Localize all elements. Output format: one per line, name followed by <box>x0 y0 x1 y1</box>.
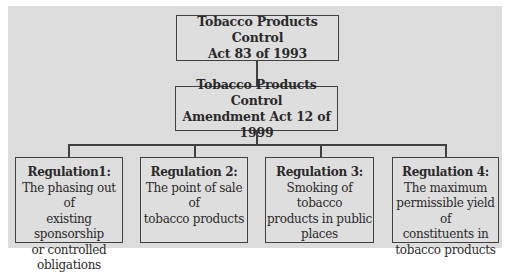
regulation-4-line: constituents in <box>403 227 489 243</box>
regulation-2-box: Regulation 2: The point of sale of tobac… <box>140 157 248 243</box>
regulation-2-line: The point of sale of <box>141 181 247 212</box>
regulation-1-line: existing sponsorship <box>16 212 122 243</box>
regulation-1-box: Regulation1: The phasing out of existing… <box>15 157 123 243</box>
regulation-3-line: Smoking of tobacco <box>266 181 373 212</box>
regulation-4-box: Regulation 4: The maximum permissible yi… <box>392 157 499 243</box>
regulation-2-line: tobacco products <box>144 212 244 228</box>
amendment-act-line1: Tobacco Products Control <box>176 77 337 109</box>
regulation-3-line: products in public <box>267 212 372 228</box>
regulation-1-line: The phasing out of <box>16 181 122 212</box>
root-act-line2: Act 83 of 1993 <box>208 46 307 62</box>
regulation-3-title: Regulation 3: <box>276 165 363 181</box>
root-act-line1: Tobacco Products Control <box>177 14 338 46</box>
regulation-2-title: Regulation 2: <box>151 165 238 181</box>
connector-bus <box>68 144 446 146</box>
regulation-1-line: obligations <box>37 258 101 274</box>
connector-stem-reg2 <box>194 144 196 157</box>
connector-amendment-to-bus <box>256 131 258 144</box>
connector-stem-reg1 <box>68 144 70 157</box>
regulation-1-line: or controlled <box>32 243 107 259</box>
amendment-act-box: Tobacco Products Control Amendment Act 1… <box>175 86 338 131</box>
root-act-box: Tobacco Products Control Act 83 of 1993 <box>176 15 339 61</box>
regulation-3-box: Regulation 3: Smoking of tobacco product… <box>265 157 374 243</box>
regulation-4-line: The maximum <box>404 181 487 197</box>
regulation-4-title: Regulation 4: <box>402 165 489 181</box>
regulation-1-title: Regulation1: <box>27 165 110 181</box>
regulation-4-line: tobacco products <box>395 243 495 259</box>
regulation-3-line: places <box>301 227 338 243</box>
connector-stem-reg3 <box>320 144 322 157</box>
connector-stem-reg4 <box>445 144 447 157</box>
regulation-4-line: permissible yield of <box>393 196 498 227</box>
